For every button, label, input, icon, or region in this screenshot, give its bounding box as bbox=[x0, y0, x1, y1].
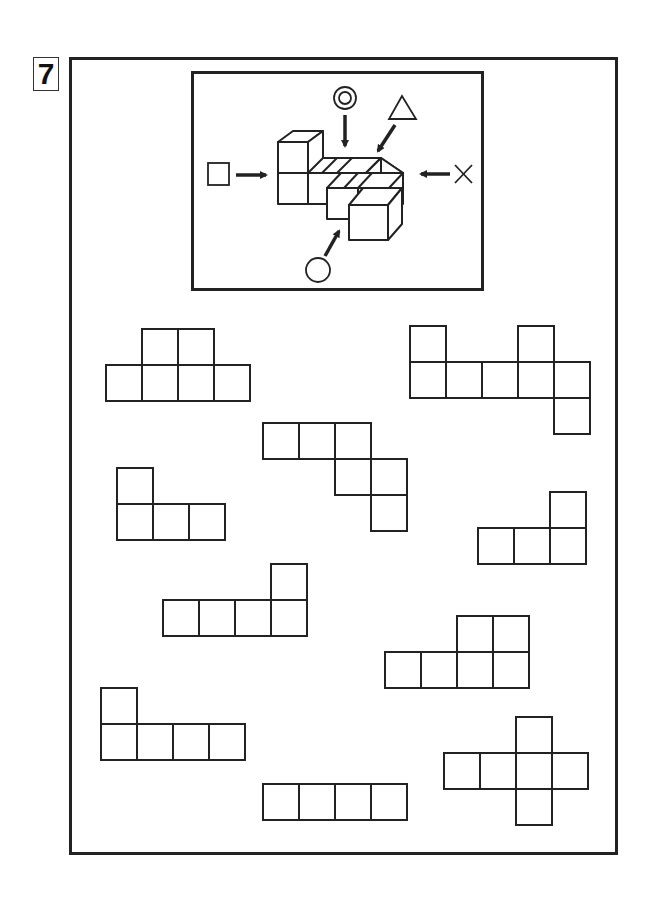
net-cell bbox=[199, 600, 235, 636]
net-cell bbox=[385, 652, 421, 688]
square-marker-icon bbox=[208, 163, 229, 185]
circle-marker-icon bbox=[306, 258, 330, 282]
net-cell bbox=[335, 459, 371, 495]
net-cell bbox=[163, 600, 199, 636]
net-cell bbox=[153, 504, 189, 540]
net-cell bbox=[142, 329, 178, 365]
net-cell bbox=[518, 362, 554, 398]
arrow-from-top-right-icon bbox=[378, 125, 395, 151]
cube-net[interactable] bbox=[263, 423, 407, 531]
net-cell bbox=[516, 753, 552, 789]
net-cell bbox=[514, 528, 550, 564]
net-cell bbox=[478, 528, 514, 564]
diagram-canvas bbox=[0, 0, 648, 907]
net-cell bbox=[493, 652, 529, 688]
cube-net[interactable] bbox=[101, 688, 245, 760]
net-cell bbox=[457, 652, 493, 688]
net-cell bbox=[214, 365, 250, 401]
block-figure bbox=[278, 131, 403, 240]
net-cell bbox=[371, 495, 407, 531]
cube-net[interactable] bbox=[106, 329, 250, 401]
net-cell bbox=[371, 784, 407, 820]
net-cell bbox=[554, 362, 590, 398]
net-cell bbox=[421, 652, 457, 688]
net-cell bbox=[299, 784, 335, 820]
net-cell bbox=[335, 784, 371, 820]
net-cell bbox=[263, 423, 299, 459]
net-cell bbox=[137, 724, 173, 760]
cube-net[interactable] bbox=[117, 468, 225, 540]
net-cell bbox=[263, 784, 299, 820]
net-cell bbox=[446, 362, 482, 398]
net-cell bbox=[493, 616, 529, 652]
triangle-marker-icon bbox=[389, 96, 416, 119]
net-cell bbox=[101, 724, 137, 760]
net-cell bbox=[552, 753, 588, 789]
net-cell bbox=[410, 326, 446, 362]
net-cell bbox=[550, 492, 586, 528]
net-cell bbox=[480, 753, 516, 789]
cube-nets bbox=[101, 326, 590, 825]
net-cell bbox=[178, 329, 214, 365]
net-cell bbox=[101, 688, 137, 724]
cube-net[interactable] bbox=[163, 564, 307, 636]
net-cell bbox=[335, 423, 371, 459]
net-cell bbox=[516, 789, 552, 825]
net-cell bbox=[142, 365, 178, 401]
net-cell bbox=[117, 468, 153, 504]
net-cell bbox=[371, 459, 407, 495]
cube-net[interactable] bbox=[385, 616, 529, 688]
net-cell bbox=[550, 528, 586, 564]
net-cell bbox=[117, 504, 153, 540]
cube-net[interactable] bbox=[444, 717, 588, 825]
cube-net[interactable] bbox=[478, 492, 586, 564]
net-cell bbox=[271, 564, 307, 600]
cube-net[interactable] bbox=[263, 784, 407, 820]
net-cell bbox=[457, 616, 493, 652]
net-cell bbox=[516, 717, 552, 753]
net-cell bbox=[518, 326, 554, 362]
net-cell bbox=[554, 398, 590, 434]
net-cell bbox=[189, 504, 225, 540]
net-cell bbox=[106, 365, 142, 401]
net-cell bbox=[235, 600, 271, 636]
net-cell bbox=[482, 362, 518, 398]
net-cell bbox=[178, 365, 214, 401]
net-cell bbox=[410, 362, 446, 398]
double-circle-marker-icon bbox=[334, 87, 356, 109]
cube-net[interactable] bbox=[410, 326, 590, 434]
net-cell bbox=[271, 600, 307, 636]
net-cell bbox=[444, 753, 480, 789]
net-cell bbox=[209, 724, 245, 760]
net-cell bbox=[173, 724, 209, 760]
net-cell bbox=[299, 423, 335, 459]
arrow-from-front-icon bbox=[325, 231, 339, 256]
